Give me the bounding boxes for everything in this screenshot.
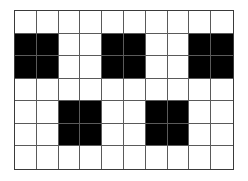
empty-cell: [59, 11, 81, 34]
filled-cell: [59, 101, 81, 124]
empty-cell: [80, 56, 102, 79]
empty-cell: [102, 101, 124, 124]
empty-cell: [146, 146, 168, 169]
filled-cell: [80, 124, 102, 147]
empty-cell: [146, 34, 168, 57]
filled-cell: [15, 34, 37, 57]
empty-cell: [168, 56, 190, 79]
empty-cell: [168, 34, 190, 57]
filled-cell: [15, 56, 37, 79]
empty-cell: [124, 79, 146, 102]
filled-cell: [124, 34, 146, 57]
empty-cell: [211, 146, 233, 169]
empty-cell: [102, 11, 124, 34]
empty-cell: [59, 79, 81, 102]
filled-cell: [146, 124, 168, 147]
empty-cell: [189, 79, 211, 102]
filled-cell: [37, 56, 59, 79]
filled-cell: [102, 56, 124, 79]
filled-cell: [168, 101, 190, 124]
filled-cell: [124, 56, 146, 79]
filled-cell: [59, 124, 81, 147]
empty-cell: [80, 146, 102, 169]
empty-cell: [146, 79, 168, 102]
empty-cell: [124, 11, 146, 34]
filled-cell: [211, 56, 233, 79]
filled-cell: [168, 124, 190, 147]
empty-cell: [15, 101, 37, 124]
empty-cell: [37, 79, 59, 102]
checker-grid: [14, 10, 234, 170]
empty-cell: [146, 56, 168, 79]
empty-cell: [189, 101, 211, 124]
empty-cell: [102, 146, 124, 169]
empty-cell: [189, 146, 211, 169]
filled-cell: [211, 34, 233, 57]
empty-cell: [80, 79, 102, 102]
empty-cell: [37, 11, 59, 34]
empty-cell: [211, 124, 233, 147]
empty-cell: [189, 124, 211, 147]
empty-cell: [211, 101, 233, 124]
filled-cell: [102, 34, 124, 57]
empty-cell: [211, 11, 233, 34]
empty-cell: [37, 146, 59, 169]
empty-cell: [80, 34, 102, 57]
filled-cell: [146, 101, 168, 124]
empty-cell: [124, 101, 146, 124]
empty-cell: [102, 79, 124, 102]
empty-cell: [168, 11, 190, 34]
filled-cell: [189, 34, 211, 57]
empty-cell: [124, 146, 146, 169]
empty-cell: [59, 34, 81, 57]
empty-cell: [59, 56, 81, 79]
empty-cell: [168, 79, 190, 102]
empty-cell: [15, 79, 37, 102]
empty-cell: [189, 11, 211, 34]
filled-cell: [80, 101, 102, 124]
empty-cell: [168, 146, 190, 169]
empty-cell: [102, 124, 124, 147]
empty-cell: [211, 79, 233, 102]
empty-cell: [124, 124, 146, 147]
empty-cell: [15, 11, 37, 34]
filled-cell: [189, 56, 211, 79]
empty-cell: [80, 11, 102, 34]
empty-cell: [15, 124, 37, 147]
empty-cell: [15, 146, 37, 169]
empty-cell: [146, 11, 168, 34]
empty-cell: [37, 101, 59, 124]
filled-cell: [37, 34, 59, 57]
empty-cell: [37, 124, 59, 147]
empty-cell: [59, 146, 81, 169]
